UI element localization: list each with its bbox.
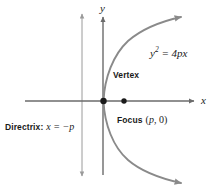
parabola-diagram-canvas — [0, 0, 217, 190]
directrix-label: Directrix: x = −p — [5, 122, 74, 132]
directrix-label-equation: x = −p — [46, 122, 74, 132]
focus-point — [121, 98, 126, 103]
parabola-lower-branch — [104, 101, 182, 183]
vertex-label: Vertex — [113, 71, 139, 80]
equation-exponent: 2 — [155, 45, 159, 54]
equation-rest: = 4px — [161, 47, 187, 59]
y-axis-label: y — [100, 3, 105, 14]
x-axis-label: x — [201, 95, 206, 106]
parabola-figure: y x y2 = 4px Vertex Focus (p, 0) Directr… — [0, 0, 217, 190]
focus-label: Focus (p, 0) — [117, 115, 167, 125]
parabola-upper-branch — [104, 17, 182, 101]
focus-label-coords: (p, 0) — [146, 115, 168, 125]
vertex-point — [100, 98, 106, 104]
focus-coord-rest: , 0) — [154, 114, 167, 125]
parabola-equation-label: y2 = 4px — [150, 46, 187, 59]
focus-label-name: Focus — [117, 116, 143, 125]
directrix-label-name: Directrix: — [5, 123, 43, 132]
